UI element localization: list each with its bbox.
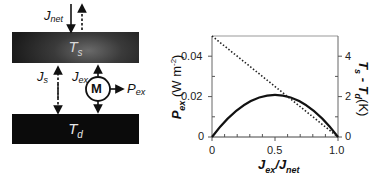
x-axis-label: Jex/Jnet xyxy=(258,157,300,175)
power-curve xyxy=(212,95,338,137)
y-right-tick-2: 2 xyxy=(345,90,351,102)
x-tick-0: 0 xyxy=(209,144,215,156)
y-left-tick-0: 0 xyxy=(198,130,204,142)
y-right-tick-4: 4 xyxy=(345,50,351,62)
x-tick-05: 0.5 xyxy=(267,144,282,156)
temperature-difference-line xyxy=(212,36,338,137)
y-right-tick-0: 0 xyxy=(345,130,351,142)
y-left-axis-label: Pex (W m-2) xyxy=(169,27,187,147)
y-right-axis-label: Ts - Td(K) xyxy=(353,39,371,139)
x-tick-10: 1.0 xyxy=(329,144,344,156)
